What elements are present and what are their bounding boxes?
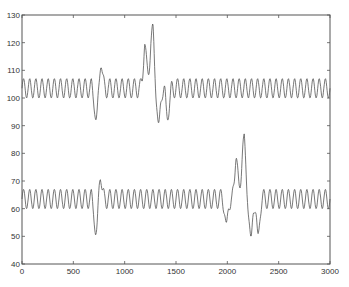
x-tick-label: 2500 [270, 267, 288, 276]
plot-area [22, 15, 330, 264]
y-tick-label: 50 [11, 232, 20, 241]
y-tick-label: 70 [11, 177, 20, 186]
x-tick-label: 1500 [167, 267, 185, 276]
y-tick-label: 60 [11, 205, 20, 214]
x-tick-label: 0 [20, 267, 25, 276]
y-tick-label: 120 [7, 39, 21, 48]
y-tick-label: 110 [7, 66, 20, 75]
line-chart: 405060708090100110120130 050010001500200… [0, 0, 349, 287]
y-tick-label: 100 [7, 94, 21, 103]
y-tick-label: 80 [11, 149, 20, 158]
y-tick-label: 90 [11, 122, 20, 131]
y-tick-label: 130 [7, 11, 21, 20]
x-tick-label: 3000 [321, 267, 339, 276]
x-tick-label: 2000 [218, 267, 236, 276]
x-tick-label: 1000 [116, 267, 134, 276]
x-tick-label: 500 [67, 267, 81, 276]
